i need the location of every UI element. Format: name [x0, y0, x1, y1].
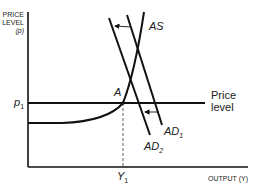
price-level-diagram: PRICE LEVEL (p) OUTPUT (Y) Price level A…: [0, 0, 254, 188]
as-label: AS: [148, 20, 164, 32]
ad2-label: AD2: [143, 140, 163, 154]
y-axis-label-line2: LEVEL: [2, 19, 24, 26]
point-a-label: A: [113, 86, 121, 98]
y1-label: Y1: [117, 170, 128, 184]
y-axis-label-line1: PRICE: [3, 11, 25, 18]
y-axis-label-line3: (p): [15, 27, 24, 35]
price-level-label-line2: level: [211, 101, 234, 113]
x-axis-label: OUTPUT (Y): [208, 175, 248, 183]
ad1-label: AD1: [163, 125, 183, 139]
ad2-line: [109, 18, 150, 135]
price-level-label-line1: Price: [211, 89, 236, 101]
shift-arrow-top: [115, 26, 131, 27]
p1-label: p1: [13, 96, 24, 110]
